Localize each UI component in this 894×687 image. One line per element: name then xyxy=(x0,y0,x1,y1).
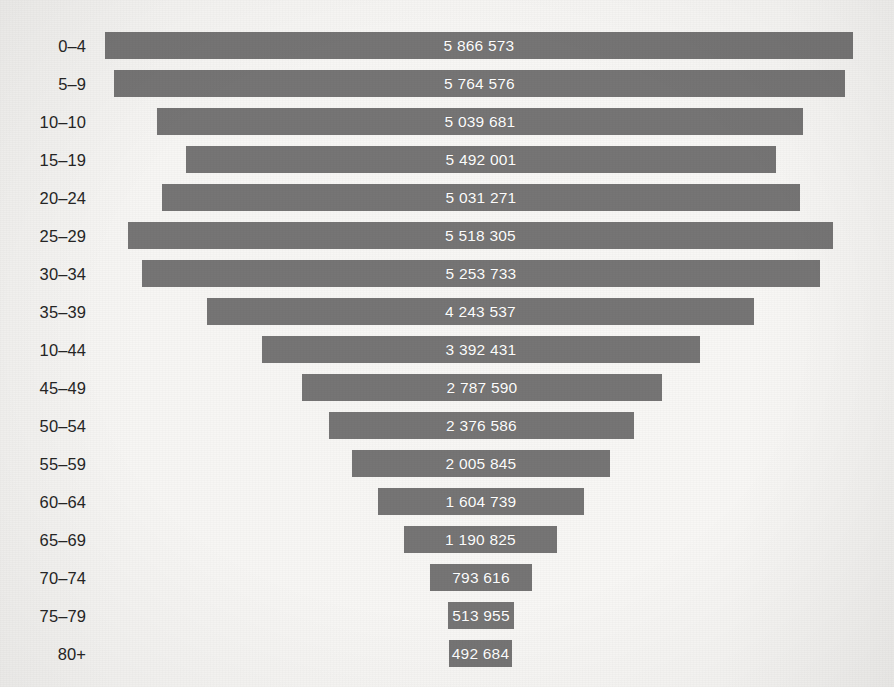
chart-row: 55–592 005 845 xyxy=(0,445,894,483)
chart-row: 75–79513 955 xyxy=(0,597,894,635)
chart-row: 80+492 684 xyxy=(0,635,894,673)
chart-row: 20–245 031 271 xyxy=(0,179,894,217)
category-label: 15–19 xyxy=(0,141,86,179)
category-label: 5–9 xyxy=(0,65,86,103)
bar-value-label: 1 604 739 xyxy=(378,488,584,515)
chart-row: 0–45 866 573 xyxy=(0,27,894,65)
chart-row: 65–691 190 825 xyxy=(0,521,894,559)
chart-row: 70–74793 616 xyxy=(0,559,894,597)
category-label: 25–29 xyxy=(0,217,86,255)
chart-row: 10–105 039 681 xyxy=(0,103,894,141)
bar-value-label: 2 787 590 xyxy=(302,374,662,401)
chart-row: 60–641 604 739 xyxy=(0,483,894,521)
category-label: 10–10 xyxy=(0,103,86,141)
category-label: 80+ xyxy=(0,635,86,673)
category-label: 55–59 xyxy=(0,445,86,483)
category-label: 0–4 xyxy=(0,27,86,65)
bar-value-label: 513 955 xyxy=(448,602,514,629)
chart-row: 30–345 253 733 xyxy=(0,255,894,293)
population-pyramid-chart: 0–45 866 5735–95 764 57610–105 039 68115… xyxy=(0,0,894,687)
category-label: 65–69 xyxy=(0,521,86,559)
category-label: 20–24 xyxy=(0,179,86,217)
bar-value-label: 2 005 845 xyxy=(352,450,610,477)
bar-value-label: 2 376 586 xyxy=(329,412,634,439)
chart-row: 50–542 376 586 xyxy=(0,407,894,445)
chart-row: 10–443 392 431 xyxy=(0,331,894,369)
chart-row: 45–492 787 590 xyxy=(0,369,894,407)
bar-value-label: 1 190 825 xyxy=(404,526,557,553)
chart-row: 15–195 492 001 xyxy=(0,141,894,179)
category-label: 45–49 xyxy=(0,369,86,407)
category-label: 30–34 xyxy=(0,255,86,293)
category-label: 70–74 xyxy=(0,559,86,597)
bar-value-label: 5 518 305 xyxy=(128,222,833,249)
chart-row: 5–95 764 576 xyxy=(0,65,894,103)
bar-value-label: 793 616 xyxy=(430,564,532,591)
bar-value-label: 5 866 573 xyxy=(105,32,853,59)
category-label: 35–39 xyxy=(0,293,86,331)
chart-plot-area: 0–45 866 5735–95 764 57610–105 039 68115… xyxy=(0,0,894,687)
bar-value-label: 5 039 681 xyxy=(157,108,803,135)
bar-value-label: 4 243 537 xyxy=(207,298,754,325)
bar-value-label: 5 492 001 xyxy=(186,146,776,173)
category-label: 10–44 xyxy=(0,331,86,369)
bar-value-label: 492 684 xyxy=(449,640,512,667)
bar-value-label: 5 764 576 xyxy=(114,70,845,97)
bar-value-label: 5 031 271 xyxy=(162,184,800,211)
category-label: 60–64 xyxy=(0,483,86,521)
bar-value-label: 3 392 431 xyxy=(262,336,700,363)
category-label: 50–54 xyxy=(0,407,86,445)
category-label: 75–79 xyxy=(0,597,86,635)
chart-row: 35–394 243 537 xyxy=(0,293,894,331)
bar-value-label: 5 253 733 xyxy=(142,260,820,287)
chart-row: 25–295 518 305 xyxy=(0,217,894,255)
